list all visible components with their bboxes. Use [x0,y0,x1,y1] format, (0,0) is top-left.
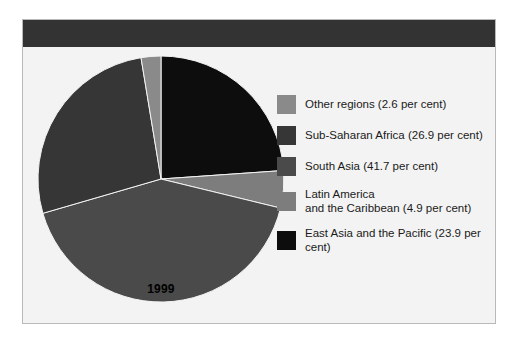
legend-swatch-east-asia-pacific [277,231,296,250]
legend-swatch-sub-saharan-africa [277,126,296,145]
pie-chart: 1999 [36,54,286,304]
figure-container: 1999 Other regions (2.6 per cent) Sub-Sa… [0,0,515,345]
legend-label-other-regions: Other regions (2.6 per cent) [305,97,446,111]
legend-label-south-asia: South Asia (41.7 per cent) [305,159,438,173]
legend-item-sub-saharan-africa: Sub-Saharan Africa (26.9 per cent) [277,125,492,145]
chart-panel: 1999 Other regions (2.6 per cent) Sub-Sa… [22,19,496,324]
legend-item-other-regions: Other regions (2.6 per cent) [277,94,492,114]
pie-slice-group [38,56,284,302]
legend-item-south-asia: South Asia (41.7 per cent) [277,156,492,176]
legend-label-sub-saharan-africa: Sub-Saharan Africa (26.9 per cent) [305,128,483,142]
pie-chart-svg [36,54,286,304]
legend-swatch-other-regions [277,95,296,114]
legend-item-east-asia-pacific: East Asia and the Pacific (23.9 per cent… [277,226,492,254]
year-label: 1999 [36,282,286,296]
header-band [23,20,495,47]
pie-slice [161,56,284,179]
chart-legend: Other regions (2.6 per cent) Sub-Saharan… [277,94,492,265]
legend-swatch-latin-america-caribbean [277,192,296,211]
legend-label-latin-america-caribbean: Latin America and the Caribbean (4.9 per… [305,187,471,215]
legend-swatch-south-asia [277,157,296,176]
legend-label-east-asia-pacific: East Asia and the Pacific (23.9 per cent… [305,226,492,254]
legend-item-latin-america-caribbean: Latin America and the Caribbean (4.9 per… [277,187,492,215]
